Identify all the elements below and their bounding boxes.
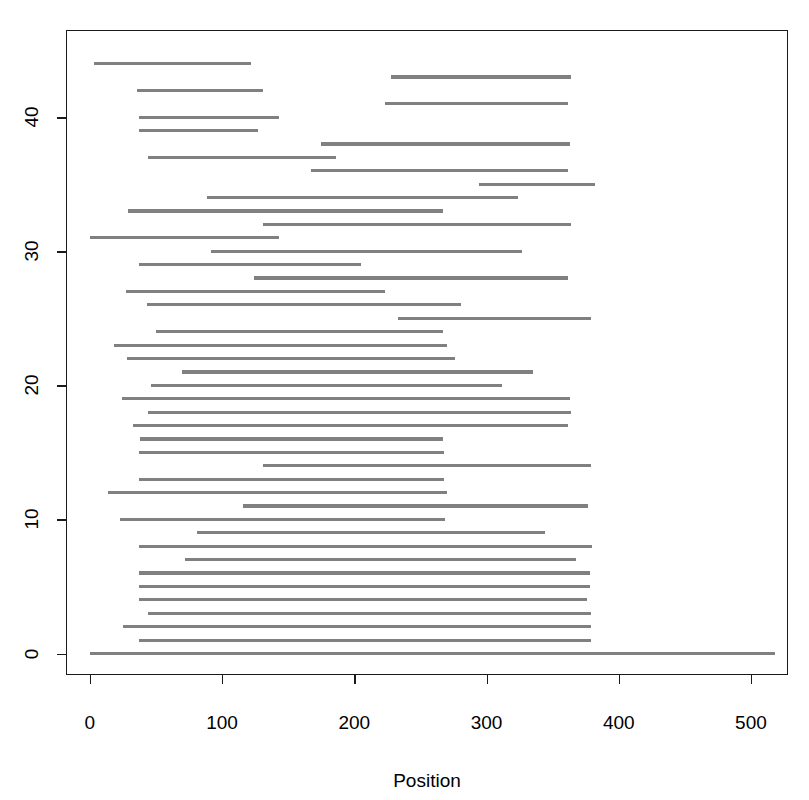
- x-tick: [751, 675, 752, 684]
- segment-bar: [90, 652, 775, 655]
- segment-bar: [147, 303, 462, 306]
- x-tick-label: 200: [338, 712, 370, 734]
- x-tick-label: 300: [471, 712, 503, 734]
- segment-bar: [94, 62, 251, 65]
- y-tick-label: 10: [21, 509, 43, 530]
- x-tick-label: 400: [603, 712, 635, 734]
- segment-bar: [385, 102, 569, 105]
- y-tick-label: 0: [21, 648, 43, 659]
- segment-bar: [127, 357, 455, 360]
- segment-bar: [139, 598, 587, 601]
- segment-bar: [398, 317, 591, 320]
- x-tick: [90, 675, 91, 684]
- segment-bar: [254, 276, 569, 279]
- segment-bar: [139, 639, 591, 642]
- plot-frame: [66, 30, 788, 675]
- segment-bar: [148, 411, 571, 414]
- segment-bar: [140, 437, 443, 440]
- segment-bar: [243, 504, 588, 507]
- y-tick-label: 40: [21, 107, 43, 128]
- x-tick-label: 500: [735, 712, 767, 734]
- segment-bar: [479, 183, 595, 186]
- segment-bar: [139, 451, 444, 454]
- y-tick: [57, 251, 66, 252]
- segment-bar: [114, 344, 447, 347]
- segment-bar: [123, 625, 591, 628]
- x-tick-label: 100: [206, 712, 238, 734]
- segment-bar: [139, 545, 593, 548]
- segment-bar: [139, 263, 361, 266]
- segment-bar: [139, 116, 279, 119]
- segment-bar: [311, 169, 569, 172]
- y-tick-label: 30: [21, 241, 43, 262]
- segment-bar: [120, 518, 445, 521]
- segment-bar: [139, 129, 258, 132]
- segment-bar: [133, 424, 568, 427]
- y-tick: [57, 117, 66, 118]
- segment-bar: [126, 290, 385, 293]
- x-tick: [619, 675, 620, 684]
- segment-bar: [263, 464, 591, 467]
- x-tick: [487, 675, 488, 684]
- segment-bar: [207, 196, 518, 199]
- segment-bar: [122, 397, 570, 400]
- x-axis-title: Position: [393, 770, 461, 792]
- x-tick: [354, 675, 355, 684]
- y-tick-label: 20: [21, 375, 43, 396]
- segment-bar: [139, 478, 444, 481]
- y-tick: [57, 519, 66, 520]
- segment-bar: [90, 236, 279, 239]
- segment-bar: [182, 370, 532, 373]
- segment-bar: [139, 571, 590, 574]
- segment-bar: [151, 384, 503, 387]
- segment-bar: [321, 142, 570, 145]
- segment-bar: [263, 223, 571, 226]
- segment-bar: [156, 330, 443, 333]
- segment-bar: [391, 75, 571, 78]
- segment-bar: [128, 209, 443, 212]
- y-tick: [57, 385, 66, 386]
- segment-bar: [148, 156, 336, 159]
- segment-bar: [148, 612, 591, 615]
- y-tick: [57, 654, 66, 655]
- segment-bar: [197, 531, 545, 534]
- segment-bar: [211, 250, 522, 253]
- x-tick-label: 0: [85, 712, 96, 734]
- segment-plot: 0100200300400500 010203040 Position: [0, 0, 809, 800]
- segment-bar: [185, 558, 576, 561]
- segment-bar: [139, 585, 590, 588]
- x-tick: [222, 675, 223, 684]
- segment-bar: [137, 89, 263, 92]
- segment-bar: [108, 491, 447, 494]
